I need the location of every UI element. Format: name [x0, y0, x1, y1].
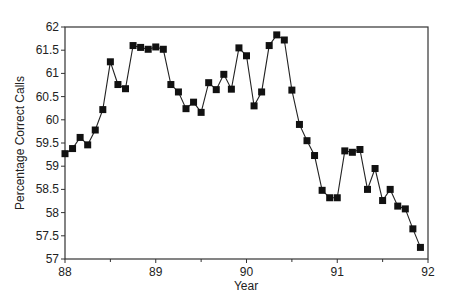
data-point-marker [198, 109, 205, 116]
data-point-marker [228, 86, 235, 93]
data-point-marker [341, 147, 348, 154]
y-tick-label: 58 [46, 206, 60, 220]
line-chart: 5757.55858.55959.56060.56161.562 8889909… [0, 0, 453, 307]
y-axis: 5757.55858.55959.56060.56161.562 [36, 20, 65, 266]
data-point-marker [107, 58, 114, 65]
data-point-marker [356, 146, 363, 153]
data-point-marker [137, 44, 144, 51]
data-point-marker [296, 121, 303, 128]
data-point-marker [99, 106, 106, 113]
data-point-marker [387, 186, 394, 193]
data-point-marker [281, 36, 288, 43]
data-point-marker [84, 141, 91, 148]
data-point-marker [326, 194, 333, 201]
x-axis-title: Year [234, 279, 258, 293]
data-point-marker [243, 52, 250, 59]
x-tick-label: 91 [331, 265, 345, 279]
data-point-marker [122, 85, 129, 92]
data-point-marker [319, 187, 326, 194]
data-point-marker [364, 186, 371, 193]
data-point-marker [145, 46, 152, 53]
data-point-marker [205, 79, 212, 86]
data-point-marker [288, 87, 295, 94]
data-point-marker [334, 194, 341, 201]
data-point-marker [372, 165, 379, 172]
data-point-marker [251, 102, 258, 109]
y-tick-label: 60 [46, 113, 60, 127]
y-tick-label: 57 [46, 252, 60, 266]
data-point-marker [190, 99, 197, 106]
y-tick-label: 61.5 [36, 43, 60, 57]
y-tick-label: 61 [46, 66, 60, 80]
data-point-marker [266, 42, 273, 49]
data-point-marker [92, 127, 99, 134]
series-line [65, 35, 420, 248]
data-point-marker [152, 43, 159, 50]
x-tick-label: 92 [421, 265, 435, 279]
data-point-marker [417, 244, 424, 251]
data-point-marker [77, 134, 84, 141]
y-tick-label: 60.5 [36, 90, 60, 104]
plot-area [65, 27, 428, 259]
data-point-marker [62, 150, 69, 157]
y-tick-label: 58.5 [36, 182, 60, 196]
y-tick-label: 59 [46, 159, 60, 173]
data-point-marker [130, 42, 137, 49]
data-point-marker [213, 86, 220, 93]
data-point-marker [304, 137, 311, 144]
data-point-marker [160, 46, 167, 53]
data-point-marker [167, 81, 174, 88]
data-point-marker [220, 71, 227, 78]
data-point-marker [311, 152, 318, 159]
data-point-marker [402, 205, 409, 212]
data-point-marker [235, 44, 242, 51]
data-point-marker [273, 31, 280, 38]
data-point-marker [379, 197, 386, 204]
data-point-marker [409, 225, 416, 232]
y-tick-label: 59.5 [36, 136, 60, 150]
x-axis: 8889909192 [58, 259, 435, 279]
y-axis-title: Percentage Correct Calls [13, 76, 27, 210]
data-series [62, 31, 424, 251]
data-point-marker [258, 88, 265, 95]
y-tick-label: 57.5 [36, 229, 60, 243]
y-tick-label: 62 [46, 20, 60, 34]
data-point-marker [349, 149, 356, 156]
x-tick-label: 90 [240, 265, 254, 279]
x-tick-label: 89 [149, 265, 163, 279]
data-point-marker [394, 203, 401, 210]
data-point-marker [175, 88, 182, 95]
x-tick-label: 88 [58, 265, 72, 279]
data-point-marker [183, 105, 190, 112]
data-point-marker [69, 145, 76, 152]
data-point-marker [114, 81, 121, 88]
